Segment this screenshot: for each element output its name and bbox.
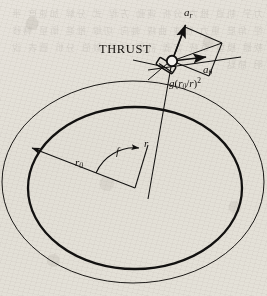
thrust-leader-line [133,60,165,67]
r-radius-line [135,145,148,188]
angle-f-arc [96,148,139,173]
spacecraft-icon [156,56,177,74]
acceleration-parallelogram [172,27,222,76]
orbit-thrust-figure: 力学 軌道 推力 分析 運動 方程 式 分解 加速度 半徑 角度 重力 加速 曲… [0,0,267,296]
diagram-canvas [0,0,267,296]
outer-orbit-ellipse [2,81,264,283]
r-zero-radius-line [32,148,135,188]
spacecraft-body-circle [167,56,177,66]
